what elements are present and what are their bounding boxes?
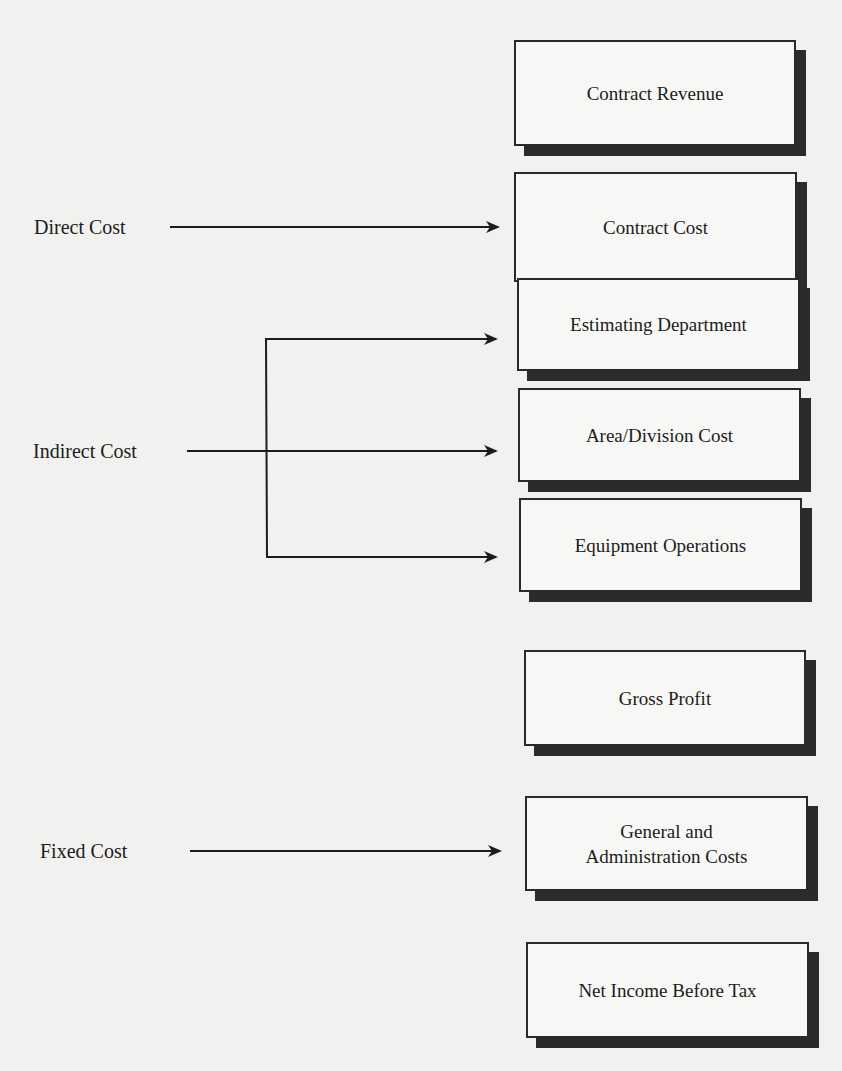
box-contract-cost: Contract Cost [514, 172, 797, 282]
box-label: Net Income Before Tax [578, 978, 756, 1003]
box-estimating-department: Estimating Department [517, 278, 800, 371]
box-label: Area/Division Cost [586, 423, 733, 448]
box-gross-profit: Gross Profit [524, 650, 806, 746]
box-label: Equipment Operations [575, 533, 747, 558]
fixed-cost-label: Fixed Cost [40, 840, 127, 863]
direct-cost-label: Direct Cost [34, 216, 126, 239]
box-label: Gross Profit [619, 686, 711, 711]
box-label: Estimating Department [570, 312, 747, 337]
box-label: Contract Cost [603, 215, 708, 240]
box-equipment-operations: Equipment Operations [519, 498, 802, 592]
box-label-line1: General and [620, 819, 712, 844]
box-general-administration-costs: General and Administration Costs [525, 796, 808, 891]
box-contract-revenue: Contract Revenue [514, 40, 796, 146]
box-area-division-cost: Area/Division Cost [518, 388, 801, 482]
indirect-cost-label: Indirect Cost [33, 440, 137, 463]
box-net-income-before-tax: Net Income Before Tax [526, 942, 809, 1038]
box-label-line2: Administration Costs [585, 844, 747, 869]
box-label: Contract Revenue [587, 81, 724, 106]
indirect-cost-bracket [266, 339, 496, 557]
